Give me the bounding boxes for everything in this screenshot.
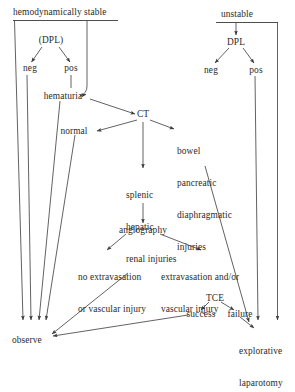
- node-failure: failure: [227, 309, 252, 320]
- edge-pos-unstable-to-explorative: [255, 76, 258, 320]
- node-no-extravasation: no extravasation or vascular injury: [78, 251, 146, 325]
- node-normal: normal: [60, 126, 87, 137]
- node-neg-unstable: neg: [204, 65, 218, 76]
- node-unstable: unstable: [221, 9, 253, 20]
- node-explorative-laparotomy-line2: laparotomy: [239, 378, 283, 389]
- node-bowel-injuries-line3: diaphragmatic: [177, 210, 232, 221]
- edge-dpl-to-neg: [32, 47, 43, 62]
- node-observe: observe: [12, 335, 42, 346]
- node-ct: CT: [137, 109, 149, 120]
- node-solid-organ-injuries-line1: splenic: [126, 190, 177, 201]
- node-hematuria: hematuria: [44, 91, 82, 102]
- edge-dpl-unstable-to-neg: [215, 48, 229, 63]
- edge-dpl-to-pos: [59, 47, 70, 62]
- node-bowel-injuries: bowel pancreatic diaphragmatic injuries: [177, 125, 232, 263]
- node-extravasation-line1: extravasation and/or: [161, 272, 239, 283]
- node-neg-stable: neg: [23, 63, 37, 74]
- node-bowel-injuries-line2: pancreatic: [177, 178, 232, 189]
- edge-ct-to-normal: [97, 120, 137, 131]
- edge-dpl-unstable-to-pos: [243, 48, 254, 63]
- node-success: success: [187, 309, 216, 320]
- node-tce: TCE: [206, 293, 224, 304]
- edge-normal-to-observe: [46, 135, 75, 320]
- node-no-extravasation-line1: no extravasation: [78, 272, 146, 283]
- edge-angiography-to-no-extravasation: [107, 234, 126, 250]
- edge-ct-to-bowel: [150, 120, 174, 129]
- edge-stable-to-observe: [15, 21, 24, 321]
- node-angiography: angiography: [119, 225, 167, 236]
- node-dpl-unstable: DPL: [227, 37, 245, 48]
- node-pos-unstable: pos: [249, 65, 262, 76]
- edge-stable-to-hematuria: [80, 21, 87, 96]
- node-pos-stable: pos: [64, 63, 77, 74]
- node-no-extravasation-line2: or vascular injury: [78, 304, 146, 315]
- node-dpl-stable: (DPL): [39, 35, 63, 46]
- edge-hematuria-to-ct: [90, 99, 135, 114]
- node-hemodynamically-stable: hemodynamically stable: [13, 7, 107, 18]
- node-bowel-injuries-line1: bowel: [177, 146, 232, 157]
- node-explorative-laparotomy-line1: explorative: [239, 346, 283, 357]
- edge-hematuria-to-observe: [39, 101, 60, 320]
- node-explorative-laparotomy: explorative laparotomy: [239, 325, 283, 392]
- edge-neg-to-observe: [27, 75, 31, 320]
